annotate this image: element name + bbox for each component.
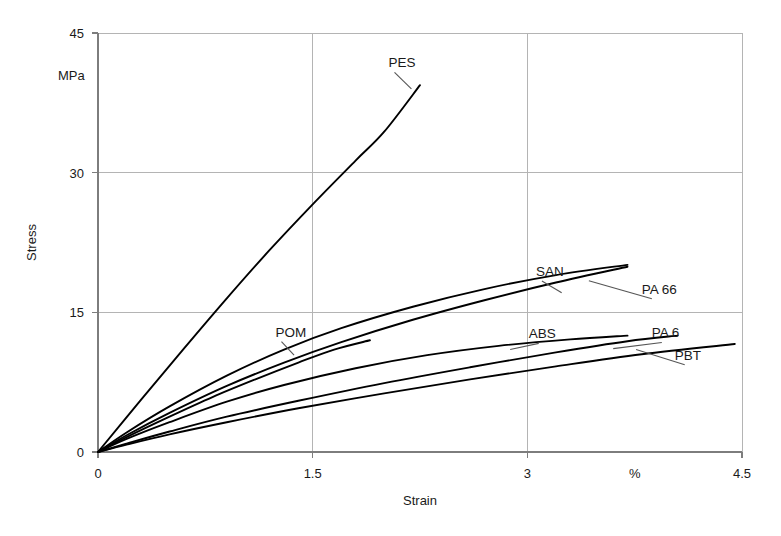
x-axis-unit-label: % xyxy=(629,466,641,481)
series-label-pom: POM xyxy=(275,325,306,340)
series-label-abs: ABS xyxy=(529,326,556,341)
stress-strain-chart: PESSANPA 66POMABSPA 6PBT 01.534.5 015304… xyxy=(0,0,781,536)
chart-background xyxy=(0,0,781,536)
chart-page: PESSANPA 66POMABSPA 6PBT 01.534.5 015304… xyxy=(0,0,781,536)
series-label-pes: PES xyxy=(389,55,416,70)
x-tick-label: 0 xyxy=(94,466,101,481)
x-axis-title: Strain xyxy=(403,493,437,508)
y-tick-label: 30 xyxy=(70,166,84,181)
x-tick-label: 1.5 xyxy=(304,466,322,481)
y-axis-unit-label: MPa xyxy=(58,68,86,83)
series-label-pa-6: PA 6 xyxy=(652,325,680,340)
y-tick-label: 45 xyxy=(70,26,84,41)
y-tick-label: 15 xyxy=(70,305,84,320)
x-tick-label: 4.5 xyxy=(733,466,751,481)
y-axis-title: Stress xyxy=(24,224,39,261)
x-tick-label: 3 xyxy=(524,466,531,481)
series-label-pbt: PBT xyxy=(675,348,701,363)
y-tick-label: 0 xyxy=(77,445,84,460)
series-label-san: SAN xyxy=(536,264,564,279)
series-label-pa-66: PA 66 xyxy=(642,282,677,297)
